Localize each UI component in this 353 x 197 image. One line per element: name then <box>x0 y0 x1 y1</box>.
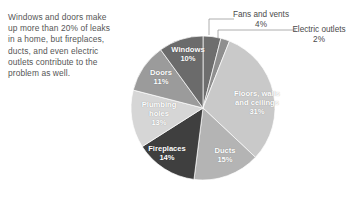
slice-doors-pct: 11% <box>154 77 169 86</box>
slice-label-windows: Windows 10% <box>164 45 212 63</box>
slice-label-doors: Doors 11% <box>142 68 180 86</box>
callout-fans-name: Fans and vents <box>233 10 289 19</box>
callout-outlets-pct: 2% <box>286 35 352 45</box>
leader-line-outlets <box>218 30 296 38</box>
slice-floors-pct: 31% <box>249 107 264 116</box>
slice-label-plumbing-holes: Plumbing holes 13% <box>133 100 185 127</box>
slice-label-fireplaces: Fireplaces 14% <box>140 144 194 162</box>
callout-outlets-name: Electric outlets <box>292 25 345 34</box>
slice-windows-pct: 10% <box>180 54 195 63</box>
screenshot-root: Windows and doors make up more than 20% … <box>0 0 353 197</box>
slice-windows-name: Windows <box>171 45 204 54</box>
slice-plumbing-line1: Plumbing <box>142 100 177 109</box>
slice-doors-name: Doors <box>150 68 172 77</box>
pie-chart: Fans and vents 4% Electric outlets 2% Fl… <box>0 0 353 197</box>
slice-fireplaces-name: Fireplaces <box>148 144 186 153</box>
slice-ducts-name: Ducts <box>214 146 235 155</box>
slice-fireplaces-pct: 14% <box>159 153 174 162</box>
slice-label-ducts: Ducts 15% <box>205 146 245 164</box>
slice-floors-line1: Floors, walls <box>234 89 280 98</box>
slice-label-floors-walls-ceilings: Floors, walls and ceilings 31% <box>226 89 288 116</box>
callout-electric-outlets: Electric outlets 2% <box>286 25 352 44</box>
slice-floors-line2: and ceilings <box>235 98 279 107</box>
slice-ducts-pct: 15% <box>217 155 232 164</box>
slice-plumbing-pct: 13% <box>151 118 166 127</box>
slice-plumbing-line2: holes <box>149 109 169 118</box>
